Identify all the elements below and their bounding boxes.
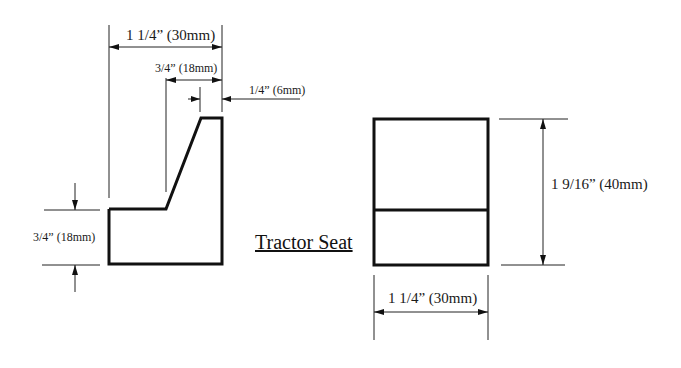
overall-width-label: 1 1/4” (30mm) (126, 27, 215, 44)
arrow-right-icon (212, 44, 222, 50)
arrow-right-icon (212, 77, 222, 83)
front-height-label: 1 9/16” (40mm) (551, 176, 648, 193)
slope-width-label: 3/4” (18mm) (155, 61, 217, 75)
arrow-up-icon (72, 265, 78, 275)
arrow-down-icon (72, 200, 78, 210)
front-width-label: 1 1/4” (30mm) (388, 290, 477, 307)
arrow-left-icon (166, 77, 176, 83)
drawing-title: Tractor Seat (255, 231, 353, 253)
front-outline (374, 119, 488, 265)
arrow-left-icon (222, 96, 231, 102)
arrow-up-icon (540, 119, 546, 129)
front-view: 1 9/16” (40mm) 1 1/4” (30mm) (374, 119, 648, 340)
arrow-right-icon (478, 309, 488, 315)
arrow-left-icon (109, 44, 119, 50)
arrow-left-icon (374, 309, 384, 315)
top-width-label: 1/4” (6mm) (249, 83, 305, 97)
tractor-seat-drawing: 1 1/4” (30mm) 3/4” (18mm) 1/4” (6mm) 3/4… (0, 0, 681, 368)
step-height-label: 3/4” (18mm) (33, 230, 95, 244)
arrow-down-icon (540, 255, 546, 265)
arrow-right-icon (191, 96, 200, 102)
